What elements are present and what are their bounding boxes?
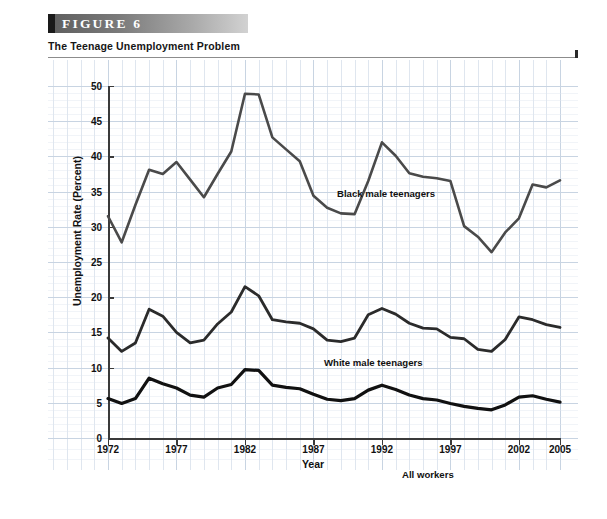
figure-number-label: FIGURE 6 (48, 16, 142, 32)
chart-frame: Unemployment Rate (Percent) 051015202530… (48, 60, 578, 470)
x-axis-tick-label: 1992 (371, 444, 393, 455)
x-axis-tick-mark (382, 439, 383, 445)
banner-cap (48, 14, 55, 33)
series-line-all-workers (108, 370, 560, 410)
x-axis-tick-mark (313, 439, 314, 445)
figure-header: FIGURE 6 The Teenage Unemployment Proble… (48, 14, 578, 58)
figure-banner: FIGURE 6 (48, 14, 248, 33)
x-axis-tick-label: 1977 (165, 444, 187, 455)
y-axis-tick-label: 40 (76, 151, 102, 162)
x-axis-tick-mark (108, 439, 109, 445)
figure-root: SOURCES: Economic Report of the Presiden… (0, 0, 607, 519)
series-label-white-male-teenagers: White male teenagers (324, 357, 423, 368)
series-lines (108, 86, 560, 438)
y-axis-tick-label: 30 (76, 221, 102, 232)
x-axis-tick-label: 2002 (508, 444, 530, 455)
y-axis-tick-label: 10 (76, 362, 102, 373)
y-axis-tick-label: 25 (76, 257, 102, 268)
x-axis-tick-mark (176, 439, 177, 445)
series-label-all-workers: All workers (402, 469, 454, 480)
figure-subtitle: The Teenage Unemployment Problem (48, 40, 240, 52)
x-axis-title: Year (48, 458, 578, 470)
series-line-white-male-teenagers (108, 287, 560, 352)
x-axis-tick-label: 1987 (302, 444, 324, 455)
y-axis-tick-label: 0 (76, 433, 102, 444)
series-line-black-male-teenagers (108, 94, 560, 252)
x-axis-tick-mark (245, 439, 246, 445)
y-axis-tick-label: 20 (76, 292, 102, 303)
x-axis-tick-mark (450, 439, 451, 445)
x-axis-tick-label: 1972 (97, 444, 119, 455)
y-axis-tick-labels: 05101520253035404550 (72, 60, 102, 470)
x-axis-tick-label: 1982 (234, 444, 256, 455)
rule-end-tick-icon (575, 50, 578, 58)
y-axis-tick-label: 45 (76, 116, 102, 127)
y-axis-tick-label: 15 (76, 327, 102, 338)
x-axis-tick-mark (560, 439, 561, 445)
plot-area (108, 86, 560, 438)
x-axis-tick-label: 2005 (549, 444, 571, 455)
figure-subtitle-row: The Teenage Unemployment Problem (48, 35, 578, 58)
y-axis-tick-label: 5 (76, 397, 102, 408)
x-axis-tick-label: 1997 (439, 444, 461, 455)
y-axis-tick-label: 50 (76, 81, 102, 92)
y-axis-tick-label: 35 (76, 186, 102, 197)
series-label-black-male-teenagers: Black male teenagers (337, 188, 435, 199)
x-axis-tick-mark (519, 439, 520, 445)
